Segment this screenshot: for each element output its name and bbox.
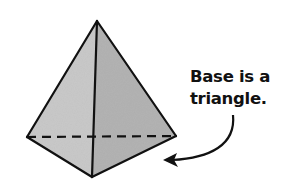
annotation-line-1: Base is a: [190, 69, 270, 86]
left-face: [27, 21, 97, 177]
annotation-line-2: triangle.: [190, 91, 267, 108]
right-face: [92, 21, 176, 177]
diagram-canvas: Base is a triangle.: [0, 0, 290, 181]
pointer-arrow: [172, 115, 233, 160]
